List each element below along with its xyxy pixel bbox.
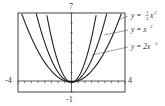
svg-text:y =: y = — [130, 11, 141, 20]
legend-x-squared: y = x 2 — [130, 24, 153, 34]
svg-text:2: 2 — [146, 16, 149, 21]
label-pointers — [92, 16, 128, 55]
svg-text:2: 2 — [150, 24, 153, 29]
legend-half-x-squared: y = 1 2 x 2 — [130, 10, 157, 21]
svg-text:2: 2 — [154, 10, 157, 15]
ymin-label: -1 — [66, 95, 73, 104]
svg-text:2: 2 — [155, 41, 158, 46]
svg-text:y = x: y = x — [130, 25, 147, 34]
ymax-label: 7 — [69, 2, 73, 11]
graph: 7 -1 -4 4 y = 1 2 x 2 y = x 2 y = 2x 2 — [0, 0, 165, 106]
xmin-label: -4 — [5, 76, 12, 85]
legend-2x-squared: y = 2x 2 — [130, 41, 158, 51]
svg-text:y = 2x: y = 2x — [130, 42, 151, 51]
svg-text:1: 1 — [146, 10, 149, 15]
xmax-label: 4 — [128, 76, 132, 85]
